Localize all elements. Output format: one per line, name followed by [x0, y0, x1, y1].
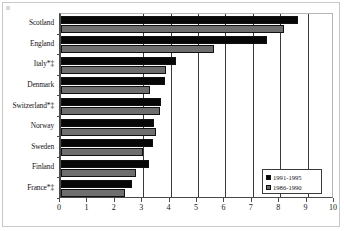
bar-group — [61, 35, 332, 56]
category-label: Switzerland*‡ — [13, 101, 54, 110]
bar — [61, 148, 143, 156]
value-tick-0 — [59, 198, 60, 202]
value-tick-label: 10 — [329, 203, 337, 212]
value-tick-label: 9 — [304, 203, 308, 212]
bar — [61, 36, 267, 44]
bar-group — [61, 96, 332, 117]
legend: 1991-19951986-1990 — [262, 169, 322, 194]
bar — [61, 189, 125, 197]
value-tick-label: 4 — [167, 203, 171, 212]
value-tick-label: 7 — [249, 203, 253, 212]
value-tick-1 — [86, 198, 87, 202]
bar — [61, 128, 156, 136]
legend-label: 1991-1995 — [273, 174, 302, 181]
category-label: Finland — [32, 162, 54, 171]
value-tick-label: 0 — [57, 203, 61, 212]
bar — [61, 16, 298, 24]
category-label: Denmark — [27, 80, 54, 89]
value-tick-8 — [278, 198, 279, 202]
value-tick-7 — [251, 198, 252, 202]
category-label: Norway — [31, 121, 54, 130]
bar — [61, 66, 166, 74]
category-label: Scotland — [29, 18, 54, 27]
bar-group — [61, 55, 332, 76]
value-tick-3 — [141, 198, 142, 202]
bar — [61, 180, 132, 188]
category-axis-labels: ScotlandEnglandItaly*‡DenmarkSwitzerland… — [0, 13, 57, 198]
value-tick-4 — [169, 198, 170, 202]
value-tick-label: 6 — [221, 203, 225, 212]
bar — [61, 57, 176, 65]
category-label: France*‡ — [27, 183, 54, 192]
bar-group — [61, 137, 332, 158]
bar — [61, 107, 160, 115]
legend-swatch-icon — [266, 185, 271, 190]
bar-group — [61, 14, 332, 35]
value-tick-6 — [223, 198, 224, 202]
value-tick-label: 3 — [139, 203, 143, 212]
value-axis: 012345678910 — [59, 198, 333, 220]
legend-item: 1991-1995 — [266, 172, 319, 182]
bar — [61, 139, 153, 147]
value-tick-10 — [333, 198, 334, 202]
bar — [61, 98, 161, 106]
legend-swatch-icon — [266, 175, 271, 180]
scan-artifact-mark — [6, 6, 10, 10]
value-tick-label: 5 — [194, 203, 198, 212]
bar — [61, 25, 284, 33]
legend-label: 1986-1990 — [273, 184, 302, 191]
bar-chart-figure: ScotlandEnglandItaly*‡DenmarkSwitzerland… — [0, 0, 344, 231]
category-label: Sweden — [31, 142, 54, 151]
value-tick-label: 8 — [276, 203, 280, 212]
value-tick-2 — [114, 198, 115, 202]
bar — [61, 169, 136, 177]
bar — [61, 160, 149, 168]
value-tick-label: 1 — [84, 203, 88, 212]
bar — [61, 77, 165, 85]
value-tick-9 — [306, 198, 307, 202]
category-label: England — [30, 39, 54, 48]
value-tick-5 — [196, 198, 197, 202]
bar-group — [61, 117, 332, 138]
bar-group — [61, 76, 332, 97]
category-label: Italy*‡ — [34, 59, 54, 68]
value-tick-label: 2 — [112, 203, 116, 212]
legend-item: 1986-1990 — [266, 182, 319, 192]
bar — [61, 119, 154, 127]
bar — [61, 86, 150, 94]
bar — [61, 45, 214, 53]
